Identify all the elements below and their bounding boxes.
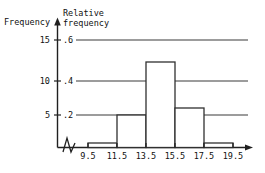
bar-17-5-to-19-5 xyxy=(204,143,233,148)
x-axis-arrow-icon xyxy=(245,144,253,150)
bar-9-5-to-11-5 xyxy=(88,143,117,148)
bar-13-5-to-15-5 xyxy=(146,62,175,148)
histogram-figure: Frequency Relative frequency 15 10 5 .6 … xyxy=(0,0,265,173)
histogram-plot xyxy=(0,0,265,173)
axis-break-zigzag-icon xyxy=(63,138,75,152)
y-axis-arrow-icon xyxy=(54,18,61,26)
bars-group xyxy=(88,62,233,148)
bar-11-5-to-13-5 xyxy=(117,115,146,148)
bar-15-5-to-17-5 xyxy=(175,108,204,148)
y-axis-group xyxy=(54,18,61,148)
